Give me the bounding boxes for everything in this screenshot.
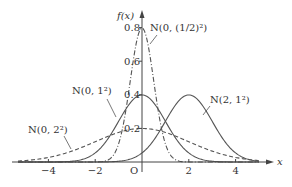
leader-line [150, 35, 157, 44]
curve-label: N(0, (1/2)²) [150, 22, 207, 33]
curve-label: N(0, 2²) [28, 124, 68, 135]
y-tick-label: 0.6 [124, 56, 140, 67]
y-tick-label: 0.2 [124, 123, 140, 134]
leader-line [64, 136, 71, 149]
curve-label: N(0, 1²) [72, 85, 112, 96]
y-tick-label: 0.4 [124, 89, 140, 100]
x-axis-label: x [277, 156, 283, 167]
y-axis-label: f(x) [116, 10, 134, 21]
x-tick-label: −2 [88, 165, 103, 176]
origin-label: O [130, 165, 138, 176]
y-tick-label: 0.8 [124, 22, 140, 33]
curve-label: N(2, 1²) [210, 94, 250, 105]
x-tick-label: 2 [186, 165, 192, 176]
y-axis-arrow-icon [140, 10, 145, 18]
normal-distribution-chart: x f(x) O −4−2240.20.40.60.8 N(0, (1/2)²)… [0, 0, 292, 187]
x-axis-arrow-icon [266, 160, 274, 165]
leader-line [107, 99, 116, 117]
x-tick-label: −4 [41, 165, 56, 176]
x-tick-label: 4 [232, 165, 238, 176]
axes-layer: x f(x) O [12, 10, 283, 176]
